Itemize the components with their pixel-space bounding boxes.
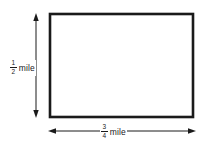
width-dimension-label: 3 4 mile <box>100 124 127 140</box>
height-fraction: 1 2 <box>10 60 17 76</box>
height-dimension-label: 1 2 mile <box>9 60 36 76</box>
height-unit-text: mile <box>19 64 35 73</box>
rectangle-outline <box>50 14 193 117</box>
width-fraction: 3 4 <box>101 124 108 140</box>
width-unit-text: mile <box>110 128 126 137</box>
width-fraction-denominator: 4 <box>103 132 107 139</box>
height-fraction-denominator: 2 <box>12 68 16 75</box>
figure-dimensioned-rectangle: 1 2 mile 3 4 mile <box>0 0 205 150</box>
